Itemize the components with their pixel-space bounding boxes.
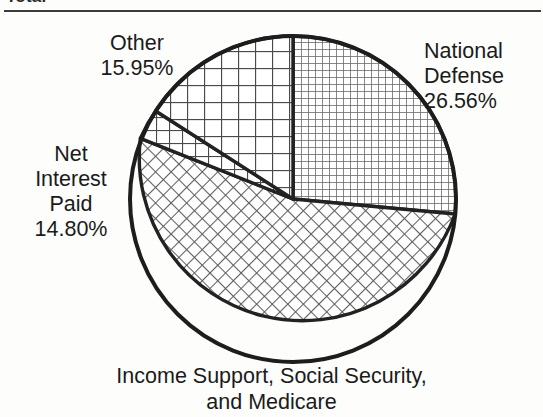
- label-income-line-1: Income Support, Social Security,: [0, 363, 543, 389]
- label-net-interest-paid: Net Interest Paid 14.80%: [6, 142, 136, 242]
- label-interest-name-3: Paid: [6, 192, 136, 217]
- label-interest-name-1: Net: [6, 142, 136, 167]
- label-other: Other 15.95%: [72, 31, 202, 81]
- label-national-defense: National Defense 26.56%: [424, 39, 543, 114]
- label-defense-name-1: National: [424, 39, 543, 64]
- label-defense-name-2: Defense: [424, 64, 543, 89]
- label-income-line-2: and Medicare: [0, 389, 543, 415]
- label-defense-value: 26.56%: [424, 89, 543, 114]
- pie-chart-figure: Total: [0, 0, 543, 417]
- label-income-support: Income Support, Social Security, and Med…: [0, 363, 543, 415]
- label-other-value: 15.95%: [72, 56, 202, 81]
- label-other-name: Other: [72, 31, 202, 56]
- label-interest-value: 14.80%: [6, 217, 136, 242]
- label-interest-name-2: Interest: [6, 167, 136, 192]
